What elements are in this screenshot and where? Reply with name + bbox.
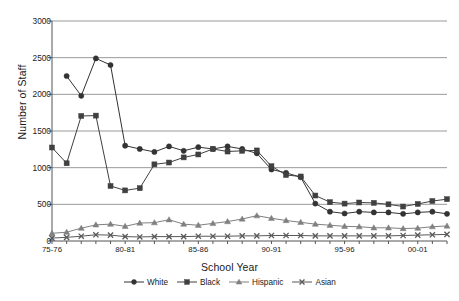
data-point-marker: [93, 56, 98, 61]
data-point-marker: [108, 221, 114, 226]
legend-label: White: [147, 278, 168, 287]
data-point-marker: [313, 201, 318, 206]
x-axis-tick-label: 00-01: [408, 245, 428, 254]
data-point-marker: [185, 280, 190, 285]
y-axis-tick-label: 2500: [11, 53, 51, 63]
data-point-marker: [181, 148, 186, 153]
data-point-marker: [152, 162, 157, 167]
plot-area: [0, 0, 459, 301]
legend-item-hispanic[interactable]: Hispanic: [228, 277, 283, 287]
data-point-marker: [64, 161, 69, 166]
data-point-marker: [132, 280, 137, 285]
y-axis-tick-labels: 050010001500200025003000: [0, 0, 51, 301]
data-point-marker: [181, 155, 186, 160]
data-point-marker: [298, 174, 303, 179]
data-point-marker: [240, 148, 245, 153]
data-point-marker: [167, 160, 172, 165]
data-point-marker: [284, 173, 289, 178]
x-axis-title: School Year: [0, 261, 459, 273]
y-axis-tick-label: 2000: [11, 89, 51, 99]
data-point-marker: [401, 204, 406, 209]
chart-container: Number of Staff 050010001500200025003000…: [0, 0, 459, 301]
data-point-marker: [64, 73, 69, 78]
legend-marker-square-icon: [176, 277, 198, 287]
x-axis-tick-label: 75-76: [42, 245, 62, 254]
chart-legend: WhiteBlackHispanicAsian: [0, 277, 459, 287]
series-asian: [49, 232, 449, 241]
data-point-marker: [108, 62, 113, 67]
legend-item-white[interactable]: White: [123, 277, 168, 287]
series-white: [64, 56, 450, 217]
data-point-marker: [430, 209, 435, 214]
data-point-marker: [444, 223, 450, 228]
data-point-marker: [357, 200, 362, 205]
x-axis-tick-label: 85-86: [188, 245, 208, 254]
data-point-marker: [225, 149, 230, 154]
x-axis-tick-label: 80-81: [115, 245, 135, 254]
legend-label: Hispanic: [252, 278, 283, 287]
data-point-marker: [401, 211, 406, 216]
data-point-marker: [93, 113, 98, 118]
data-point-marker: [123, 188, 128, 193]
legend-marker-cross-icon: [291, 277, 313, 287]
data-point-marker: [166, 144, 171, 149]
data-point-marker: [269, 164, 274, 169]
data-point-marker: [371, 210, 376, 215]
legend-marker-circle-icon: [123, 277, 145, 287]
data-point-marker: [166, 217, 172, 222]
data-point-marker: [415, 201, 420, 206]
data-point-marker: [371, 200, 376, 205]
data-point-marker: [196, 152, 201, 157]
data-point-marker: [327, 200, 332, 205]
data-point-marker: [444, 211, 449, 216]
data-point-marker: [313, 193, 318, 198]
data-point-marker: [342, 201, 347, 206]
data-point-marker: [254, 148, 259, 153]
series-hispanic: [49, 213, 450, 236]
legend-item-asian[interactable]: Asian: [291, 277, 335, 287]
data-point-marker: [108, 184, 113, 189]
data-point-marker: [79, 93, 84, 98]
data-point-marker: [445, 197, 450, 202]
y-axis-tick-label: 3000: [11, 16, 51, 26]
series-black: [50, 113, 450, 209]
y-axis-tick-label: 500: [11, 199, 51, 209]
data-point-marker: [430, 199, 435, 204]
legend-marker-triangle-icon: [228, 277, 250, 287]
data-point-marker: [137, 146, 142, 151]
data-point-marker: [152, 149, 157, 154]
data-point-marker: [196, 145, 201, 150]
legend-label: Black: [200, 278, 220, 287]
data-point-marker: [225, 144, 230, 149]
data-point-marker: [123, 143, 128, 148]
data-point-marker: [386, 210, 391, 215]
y-axis-tick-label: 1000: [11, 163, 51, 173]
x-axis-tick-label: 90-91: [261, 245, 281, 254]
data-point-marker: [327, 209, 332, 214]
data-point-marker: [79, 113, 84, 118]
data-point-marker: [137, 186, 142, 191]
data-point-marker: [342, 211, 347, 216]
series-line: [52, 116, 447, 207]
x-axis-tick-label: 95-96: [335, 245, 355, 254]
y-axis-tick-label: 1500: [11, 126, 51, 136]
data-point-marker: [357, 209, 362, 214]
legend-label: Asian: [315, 278, 335, 287]
legend-item-black[interactable]: Black: [176, 277, 220, 287]
data-point-marker: [386, 202, 391, 207]
data-point-marker: [210, 146, 215, 151]
data-point-marker: [415, 210, 420, 215]
data-point-marker: [254, 213, 260, 218]
